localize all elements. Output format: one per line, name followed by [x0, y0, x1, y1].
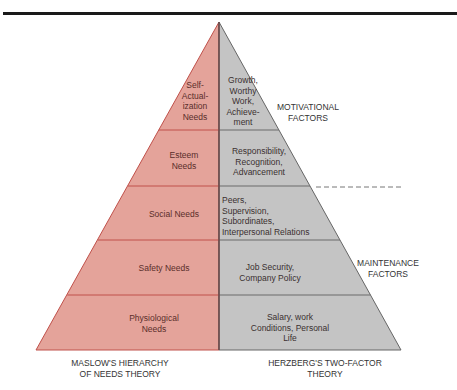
herzberg-level-growth: Growth, Worthy Work, Achieve- ment: [220, 75, 266, 128]
motivational-factors-label: MOTIVATIONAL FACTORS: [268, 102, 348, 124]
maslow-level-self-actualization: Self- Actual- ization Needs: [172, 80, 218, 122]
maslow-title: MASLOW'S HIERARCHY OF NEEDS THEORY: [50, 358, 190, 380]
maslow-level-safety: Safety Needs: [110, 263, 218, 274]
herzberg-level-responsibility: Responsibility, Recognition, Advancement: [220, 146, 298, 178]
maslow-level-social: Social Needs: [130, 209, 218, 220]
maintenance-factors-label: MAINTENANCE FACTORS: [348, 258, 428, 280]
maslow-level-physiological: Physiological Needs: [90, 313, 218, 334]
maslow-level-esteem: Esteem Needs: [150, 150, 218, 171]
herzberg-level-peers: Peers, Supervision, Subordinates, Interp…: [222, 195, 332, 237]
herzberg-level-salary: Salary, work Conditions, Personal Life: [230, 312, 350, 344]
herzberg-level-job-security: Job Security, Company Policy: [220, 262, 320, 283]
herzberg-title: HERZBERG'S TWO-FACTOR THEORY: [250, 358, 400, 380]
